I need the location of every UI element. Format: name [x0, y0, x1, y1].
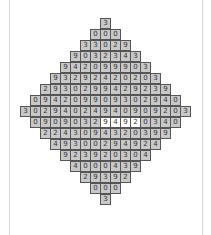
grid-row: 93292420203: [1, 73, 211, 84]
grid-row: 33029: [1, 40, 211, 51]
grid-cell[interactable]: 0: [170, 95, 181, 106]
grid-cell[interactable]: 9: [130, 161, 141, 172]
grid-row: 094209909302940: [1, 95, 211, 106]
grid-cell[interactable]: 3: [100, 194, 111, 205]
grid-row: 49300294924: [1, 139, 211, 150]
grid-cell[interactable]: 3: [100, 18, 111, 29]
grid-row: 2930299429239: [1, 84, 211, 95]
grid-cell[interactable]: 3: [130, 51, 141, 62]
grid-row: 30294024940909203: [1, 106, 211, 117]
grid-row: 000: [1, 183, 211, 194]
grid-row: 3: [1, 194, 211, 205]
grid-cell[interactable]: 3: [180, 106, 191, 117]
grid-cell[interactable]: 0: [170, 117, 181, 128]
grid-cell[interactable]: 2: [120, 172, 131, 183]
grid-row: 923920304: [1, 150, 211, 161]
grid-cell[interactable]: 0: [110, 29, 121, 40]
grid-row: 3: [1, 18, 211, 29]
grid-cell[interactable]: 3: [150, 73, 161, 84]
grid-cell[interactable]: 4: [140, 150, 151, 161]
grid-cell[interactable]: 9: [120, 40, 131, 51]
grid-cell[interactable]: 3: [140, 62, 151, 73]
grid-cell[interactable]: 9: [160, 128, 171, 139]
grid-row: 942099903: [1, 62, 211, 73]
grid-row: 29392: [1, 172, 211, 183]
grid-row: 2243094320399: [1, 128, 211, 139]
grid-cell[interactable]: 0: [110, 183, 121, 194]
grid-cell[interactable]: 9: [160, 84, 171, 95]
grid-cell[interactable]: 4: [150, 139, 161, 150]
grid-row: 9032343: [1, 51, 211, 62]
diamond-number-grid: 3000330299032343942099903932924202032930…: [0, 18, 211, 205]
grid-row: 4000439: [1, 161, 211, 172]
grid-row: 090903294920340: [1, 117, 211, 128]
grid-row: 000: [1, 29, 211, 40]
